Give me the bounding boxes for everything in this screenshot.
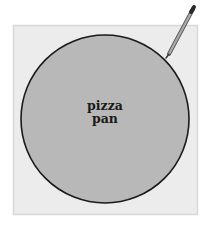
pizza-pan-label: pizza pan [75, 99, 135, 125]
label-line-2: pan [75, 112, 135, 125]
